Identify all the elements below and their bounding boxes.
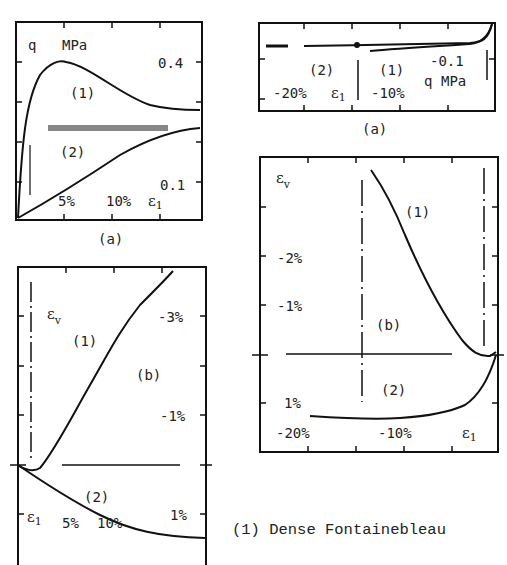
xtick-5: 5% [62,515,79,531]
ytick-neg2: -2% [277,250,303,266]
ylabel-epsilon-v: εv [47,305,62,327]
curve-label-1: (1) [379,62,404,78]
curve-label-2: (2) [381,382,406,398]
ytick-0.4: 0.4 [158,55,183,71]
ytick-1: 1% [284,395,301,411]
xlabel-epsilon: ε1 [27,508,42,528]
panel-label-b: (b) [136,367,161,383]
panel-label-b: (b) [376,317,401,333]
xtick-neg20: -20% [276,425,310,441]
ytick-neg0.1: -0.1 [430,53,464,69]
ytick-neg1: -1% [160,408,186,424]
ytick-1: 1% [170,507,187,523]
legend: (1) Dense Fontainebleau sand: e = 0.72 D… [232,473,507,565]
curve-label-1: (1) [72,333,97,349]
curve-1 [370,24,492,51]
xtick-10: 10% [97,515,123,531]
caption-a-right: (a) [362,121,387,137]
caption-a-left: (a) [98,231,123,247]
xtick-neg20: -20% [273,85,307,101]
ytick-0.1: 0.1 [160,177,185,193]
ylabel-epsilon-v: εv [276,169,291,191]
xtick-5: 5% [58,193,75,209]
ylabel-unit: MPa [62,37,87,53]
xlabel-epsilon: ε1 [462,424,477,444]
ylabel-unit: MPa [441,73,466,89]
curve-label-1: (1) [70,85,95,101]
curve-label-1: (1) [405,204,430,220]
xlabel-epsilon: ε1 [148,192,163,212]
curve-label-2: (2) [60,144,85,160]
xtick-neg10: -10% [378,425,412,441]
curve-2 [304,24,492,46]
curve-label-2: (2) [309,62,334,78]
ylabel-q: q [28,37,36,53]
xtick-10: 10% [106,193,132,209]
ylabel-q: q [424,73,432,89]
ytick-neg1: -1% [277,298,303,314]
legend-line-1: (1) Dense Fontainebleau [232,519,507,542]
ytick-neg3: -3% [158,309,184,325]
xlabel-epsilon: ε1 [331,84,346,104]
xtick-neg10: -10% [371,85,405,101]
curve-label-2: (2) [84,489,109,505]
